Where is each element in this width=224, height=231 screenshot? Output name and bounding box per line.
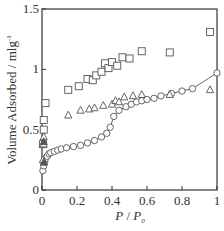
x-axis-ticks: 00.20.40.60.81 xyxy=(39,186,221,208)
square-marker xyxy=(166,49,173,56)
x-tick-label: 0.8 xyxy=(174,193,190,208)
x-tick-label: 0.4 xyxy=(104,193,121,208)
x-axis-title-sub: 0 xyxy=(141,217,145,225)
plot-frame xyxy=(42,9,217,190)
circle-marker xyxy=(116,107,122,113)
circle-marker xyxy=(111,113,117,119)
circle-marker xyxy=(151,95,157,101)
x-axis-title: P / P0 xyxy=(114,208,145,225)
circle-marker xyxy=(91,137,97,143)
circle-marker xyxy=(104,130,110,136)
triangle-marker xyxy=(65,111,72,118)
y-tick-label: 0 xyxy=(33,182,40,197)
x-tick-label: 0.6 xyxy=(139,193,156,208)
x-axis-title-sep: / xyxy=(123,208,133,223)
square-marker xyxy=(40,117,47,124)
square-marker xyxy=(114,62,121,69)
triangle-marker xyxy=(129,92,136,99)
square-marker xyxy=(65,86,72,93)
x-tick-label: 0 xyxy=(39,193,46,208)
triangle-marker xyxy=(121,93,128,100)
square-marker xyxy=(119,54,126,61)
circle-marker xyxy=(189,85,195,91)
y-axis-title-sup: -1 xyxy=(5,35,13,41)
circle-marker xyxy=(107,124,113,130)
circle-marker xyxy=(179,88,185,94)
circle-marker xyxy=(70,143,76,149)
square-marker xyxy=(207,28,214,35)
square-marker xyxy=(138,48,145,55)
y-tick-label: 1 xyxy=(33,61,40,76)
triangle-marker xyxy=(206,86,213,93)
x-tick-label: 0.2 xyxy=(69,193,85,208)
x-axis-title-p0: P xyxy=(132,208,141,223)
triangle-marker xyxy=(77,106,84,113)
y-tick-label: 0.5 xyxy=(23,122,39,137)
y-axis-title-main: Volume Adsorbed / mlg xyxy=(4,41,19,165)
series-squares xyxy=(39,28,213,147)
y-tick-label: 1.5 xyxy=(23,1,39,16)
circle-marker xyxy=(84,140,90,146)
square-marker xyxy=(98,68,105,75)
series-layer xyxy=(39,28,220,173)
circle-marker xyxy=(77,142,83,148)
triangle-marker xyxy=(100,102,107,109)
circle-marker xyxy=(158,93,164,99)
triangle-marker xyxy=(138,91,145,98)
adsorption-chart: 00.20.40.60.81 00.511.5 P / P0 Volume Ad… xyxy=(0,0,224,231)
x-axis-title-p: P xyxy=(114,208,123,223)
square-marker xyxy=(42,100,49,107)
circle-marker xyxy=(214,70,220,76)
circle-marker xyxy=(63,145,69,151)
x-tick-label: 1 xyxy=(214,193,221,208)
y-axis-title: Volume Adsorbed / mlg-1 xyxy=(4,35,19,165)
square-marker xyxy=(75,83,82,90)
square-marker xyxy=(126,55,133,62)
triangle-marker xyxy=(91,104,98,111)
series-circles xyxy=(40,70,221,174)
